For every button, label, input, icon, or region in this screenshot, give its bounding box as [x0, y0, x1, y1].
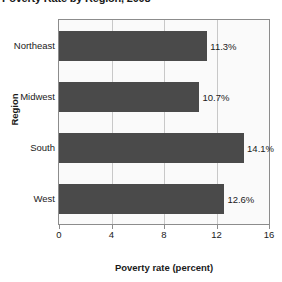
bar: [59, 31, 207, 61]
category-label: South: [3, 141, 55, 152]
bar-row: 14.1%: [59, 133, 269, 163]
x-axis-title: Poverty rate (percent): [58, 262, 270, 273]
bar-value-label: 11.3%: [207, 40, 236, 51]
bar-row: 10.7%: [59, 82, 269, 112]
x-tick-label: 8: [161, 229, 166, 240]
bars-layer: 11.3%10.7%14.1%12.6%: [59, 20, 269, 224]
y-axis-title: Region: [9, 80, 20, 140]
bar-value-label: 10.7%: [199, 91, 229, 102]
bar: [59, 82, 199, 112]
category-label: West: [3, 192, 55, 203]
plot-area: 11.3%10.7%14.1%12.6%: [58, 19, 270, 225]
x-tick-label: 12: [211, 229, 222, 240]
bar-value-label: 14.1%: [244, 142, 274, 153]
poverty-rate-bar-chart: Poverty Rate by Region, 2008 11.3%10.7%1…: [0, 0, 282, 282]
chart-title: Poverty Rate by Region, 2008: [2, 0, 150, 4]
x-tick-label: 0: [56, 229, 61, 240]
x-tick-label: 4: [109, 229, 114, 240]
x-tick-label: 16: [264, 229, 275, 240]
bar-value-label: 12.6%: [224, 193, 254, 204]
bar-row: 12.6%: [59, 184, 269, 214]
bar-row: 11.3%: [59, 31, 269, 61]
category-label: Northeast: [3, 39, 55, 50]
bar: [59, 133, 244, 163]
bar: [59, 184, 224, 214]
